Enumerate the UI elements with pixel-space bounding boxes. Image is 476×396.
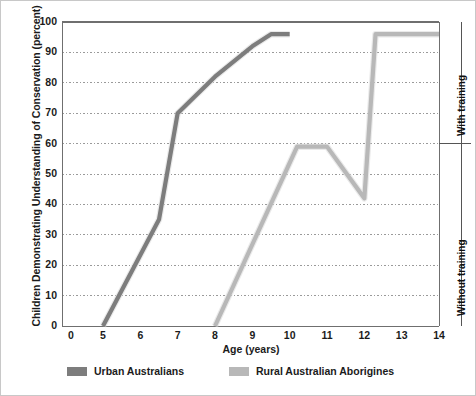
chart-legend: Urban AustraliansRural Australian Aborig…	[1, 363, 476, 383]
x-tick-7: 7	[163, 329, 193, 341]
x-axis-tick-labels: 0567891011121314	[1, 1, 476, 396]
legend-entry-urban-australians: Urban Australians	[67, 363, 184, 379]
annotation-with-training: With training	[456, 75, 467, 136]
x-tick-8: 8	[200, 329, 230, 341]
x-axis-title: Age (years)	[62, 343, 440, 355]
chart-figure: Children Demonstrating Understanding of …	[0, 0, 476, 396]
annotation-without-training: Without training	[456, 239, 467, 316]
x-tick-6: 6	[125, 329, 155, 341]
legend-swatch-1	[229, 367, 249, 376]
x-tick-9: 9	[237, 329, 267, 341]
x-tick-13: 13	[387, 329, 417, 341]
legend-swatch-0	[67, 367, 87, 376]
x-tick-5: 5	[88, 329, 118, 341]
x-tick-11: 11	[312, 329, 342, 341]
x-tick-0: 0	[56, 329, 86, 341]
legend-label-1: Rural Australian Aborigines	[256, 365, 394, 377]
x-tick-12: 12	[349, 329, 379, 341]
x-tick-10: 10	[275, 329, 305, 341]
legend-label-0: Urban Australians	[94, 365, 184, 377]
legend-entry-rural-australian-aborigines: Rural Australian Aborigines	[229, 363, 394, 379]
x-tick-14: 14	[424, 329, 454, 341]
